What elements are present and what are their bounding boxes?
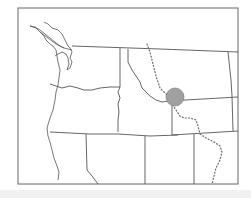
canada-border <box>72 46 238 52</box>
strait-of-juan-de-fuca <box>40 32 72 50</box>
footer-bar <box>0 190 251 198</box>
id-mt-border <box>128 49 168 102</box>
map-container <box>0 0 251 198</box>
or-id-border <box>118 87 120 132</box>
yellowstone-hotspot-marker <box>166 88 184 106</box>
wy-south-border <box>172 131 238 135</box>
wa-or-border <box>50 84 120 90</box>
northwest-us-map <box>0 0 251 198</box>
map-frame <box>18 8 238 184</box>
wy-east-border <box>232 96 233 131</box>
continental-divide <box>147 44 222 184</box>
or-ca-nv-border <box>50 132 178 136</box>
mt-nd-border <box>228 52 232 96</box>
ca-nv-border <box>86 134 98 184</box>
washington-coastline <box>30 26 60 180</box>
